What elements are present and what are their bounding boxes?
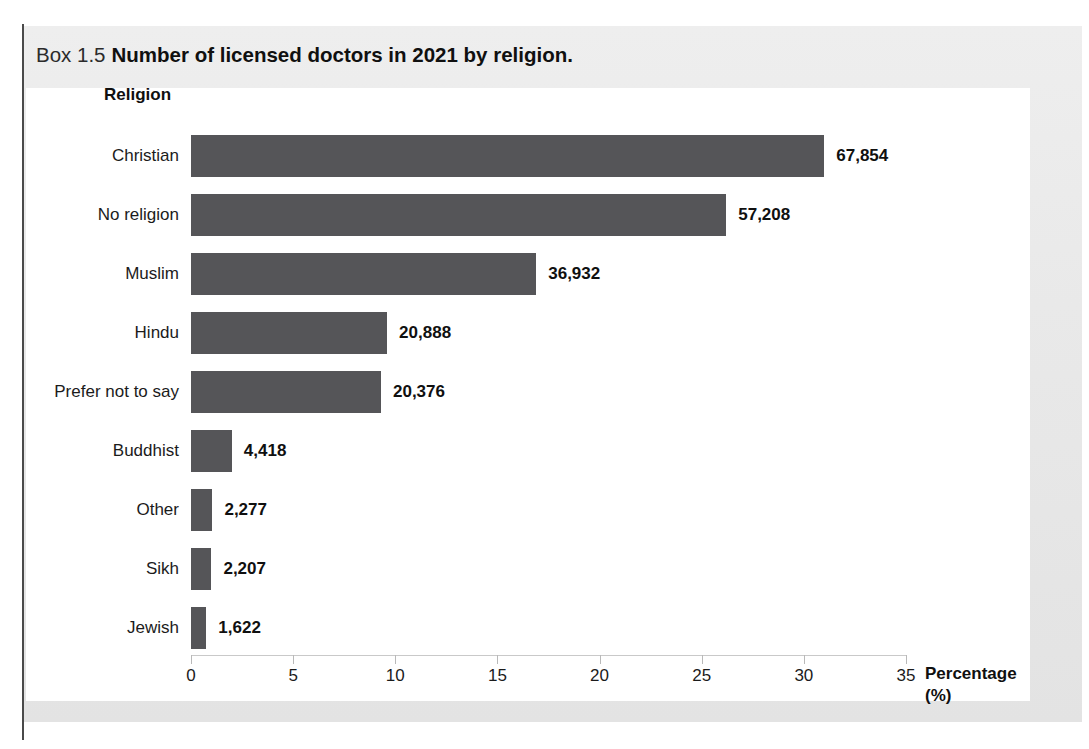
x-axis-tick	[191, 655, 192, 664]
bar-row: Other2,277	[0, 480, 1089, 539]
x-axis-tick	[293, 655, 294, 664]
x-axis-tick-label: 10	[386, 666, 405, 686]
category-label: Jewish	[14, 618, 179, 638]
bar-row: Muslim36,932	[0, 244, 1089, 303]
x-axis-title-line2: (%)	[925, 685, 1017, 707]
x-axis-tick	[600, 655, 601, 664]
x-axis-tick-label: 25	[692, 666, 711, 686]
x-axis-tick	[906, 655, 907, 664]
bar-value-label: 20,376	[393, 382, 445, 402]
category-label-wrap: Jewish	[14, 598, 179, 657]
category-label: Sikh	[14, 559, 179, 579]
x-axis-tick-label: 35	[897, 666, 916, 686]
bar	[191, 430, 232, 472]
bar-row: Jewish1,622	[0, 598, 1089, 657]
bar-value-label: 36,932	[548, 264, 600, 284]
bar-value-label: 67,854	[836, 146, 888, 166]
bar	[191, 253, 536, 295]
category-label-wrap: Muslim	[14, 244, 179, 303]
category-label: No religion	[14, 205, 179, 225]
category-label-wrap: No religion	[14, 185, 179, 244]
bar-value-label: 1,622	[218, 618, 261, 638]
bar-chart: Christian67,854No religion57,208Muslim36…	[0, 0, 1089, 749]
category-label: Muslim	[14, 264, 179, 284]
x-axis-tick-label: 5	[288, 666, 297, 686]
x-axis-tick	[395, 655, 396, 664]
bar-value-label: 4,418	[244, 441, 287, 461]
bar	[191, 548, 211, 590]
bar	[191, 135, 824, 177]
x-axis-tick	[804, 655, 805, 664]
bar-row: Christian67,854	[0, 126, 1089, 185]
page-canvas: Box 1.5Number of licensed doctors in 202…	[0, 0, 1089, 749]
x-axis-tick-label: 20	[590, 666, 609, 686]
category-label-wrap: Christian	[14, 126, 179, 185]
bar-row: Sikh2,207	[0, 539, 1089, 598]
x-axis-tick	[497, 655, 498, 664]
bar	[191, 312, 387, 354]
bar-row: Buddhist4,418	[0, 421, 1089, 480]
bar-value-label: 57,208	[738, 205, 790, 225]
x-axis-title-line1: Percentage	[925, 663, 1017, 685]
x-axis-tick-label: 0	[186, 666, 195, 686]
category-label-wrap: Other	[14, 480, 179, 539]
category-label-wrap: Sikh	[14, 539, 179, 598]
category-label: Buddhist	[14, 441, 179, 461]
bar-value-label: 2,207	[223, 559, 266, 579]
category-label: Christian	[14, 146, 179, 166]
category-label-wrap: Hindu	[14, 303, 179, 362]
category-label: Hindu	[14, 323, 179, 343]
bar	[191, 194, 726, 236]
bar-row: Hindu20,888	[0, 303, 1089, 362]
category-label: Prefer not to say	[14, 382, 179, 402]
bar	[191, 371, 381, 413]
x-axis-tick-label: 30	[794, 666, 813, 686]
x-axis-tick	[702, 655, 703, 664]
bar-row: Prefer not to say20,376	[0, 362, 1089, 421]
x-axis-title: Percentage (%)	[925, 663, 1017, 707]
category-label-wrap: Prefer not to say	[14, 362, 179, 421]
bar	[191, 489, 212, 531]
bar-value-label: 20,888	[399, 323, 451, 343]
category-label: Other	[14, 500, 179, 520]
category-label-wrap: Buddhist	[14, 421, 179, 480]
x-axis-tick-label: 15	[488, 666, 507, 686]
bar	[191, 607, 206, 649]
clipped-body-text	[40, 738, 940, 749]
bar-row: No religion57,208	[0, 185, 1089, 244]
x-axis-line	[191, 655, 906, 656]
bar-value-label: 2,277	[224, 500, 267, 520]
